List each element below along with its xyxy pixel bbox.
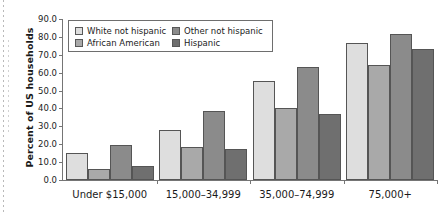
x-axis-tick-label: 15,000–34,999 xyxy=(166,189,241,200)
x-axis-tick-label: Under $15,000 xyxy=(72,189,147,200)
bar xyxy=(297,67,319,180)
page-margin-dotted-rule-secondary xyxy=(8,40,9,135)
bar xyxy=(88,169,110,180)
bar xyxy=(319,114,341,180)
chart-legend: White not hispanicAfrican AmericanOther … xyxy=(68,20,273,52)
bar xyxy=(110,145,132,180)
legend-entry: African American xyxy=(75,38,160,48)
bar xyxy=(412,49,434,180)
x-axis-tick-label: 35,000–74,999 xyxy=(259,189,334,200)
x-axis-tick-mark xyxy=(437,180,438,184)
y-axis-tick-mark xyxy=(59,162,63,163)
bar-chart-figure: Percent of US households 0.010.020.030.0… xyxy=(0,0,442,215)
bar xyxy=(253,81,275,180)
y-axis-tick-mark xyxy=(59,144,63,145)
bar xyxy=(368,65,390,180)
y-axis-tick-mark xyxy=(59,55,63,56)
page-margin-dotted-rule xyxy=(3,0,4,215)
y-axis-tick-mark xyxy=(59,126,63,127)
bar xyxy=(225,149,247,180)
bar xyxy=(390,34,412,180)
bar xyxy=(203,111,225,180)
legend-entry: White not hispanic xyxy=(75,26,166,36)
bar xyxy=(181,147,203,180)
bar xyxy=(66,153,88,180)
legend-entry: Other not hispanic xyxy=(172,26,263,36)
x-axis-tick-mark xyxy=(250,180,251,184)
x-axis-tick-mark xyxy=(344,180,345,184)
y-axis-tick-mark xyxy=(59,37,63,38)
legend-swatch-icon xyxy=(172,39,180,47)
bar xyxy=(132,166,154,180)
bar xyxy=(275,108,297,180)
legend-swatch-icon xyxy=(172,27,180,35)
y-axis-title: Percent of US households xyxy=(24,18,35,178)
legend-swatch-icon xyxy=(75,39,83,47)
x-axis-tick-mark xyxy=(157,180,158,184)
y-axis-tick-mark xyxy=(59,91,63,92)
legend-label: Other not hispanic xyxy=(184,26,263,36)
bar xyxy=(159,130,181,180)
legend-label: African American xyxy=(87,38,160,48)
x-axis-tick-label: 75,000+ xyxy=(369,189,412,200)
bar xyxy=(346,43,368,180)
legend-swatch-icon xyxy=(75,27,83,35)
y-axis-tick-mark xyxy=(59,19,63,20)
legend-label: Hispanic xyxy=(184,38,220,48)
legend-entry: Hispanic xyxy=(172,38,220,48)
y-axis-tick-mark xyxy=(59,108,63,109)
y-axis-tick-mark xyxy=(59,180,63,181)
legend-label: White not hispanic xyxy=(87,26,166,36)
y-axis-tick-mark xyxy=(59,73,63,74)
